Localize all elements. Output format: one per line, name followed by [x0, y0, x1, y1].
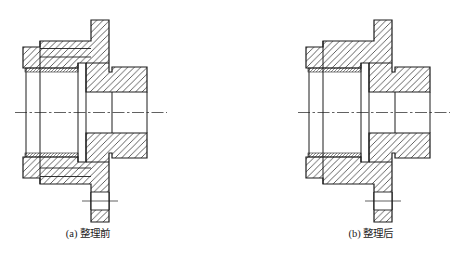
section-lower-half — [306, 133, 430, 222]
figure-a: (a) 整理前 — [15, 20, 167, 240]
figure-b-caption: (b) 整理后 — [349, 227, 394, 240]
figure-a-caption: (a) 整理前 — [66, 227, 110, 240]
thread-strip — [308, 68, 361, 72]
thread-strip — [25, 153, 78, 157]
figure-b: (b) 整理后 — [298, 20, 450, 240]
page: (a) 整理前 (b) 整理后 — [0, 0, 455, 254]
thread-strip — [308, 153, 361, 157]
section-upper-half — [306, 20, 430, 92]
thread-strip — [25, 68, 78, 72]
diagram-canvas: (a) 整理前 (b) 整理后 — [0, 0, 455, 254]
section-upper-half — [23, 20, 147, 92]
section-lower-half — [23, 133, 147, 222]
